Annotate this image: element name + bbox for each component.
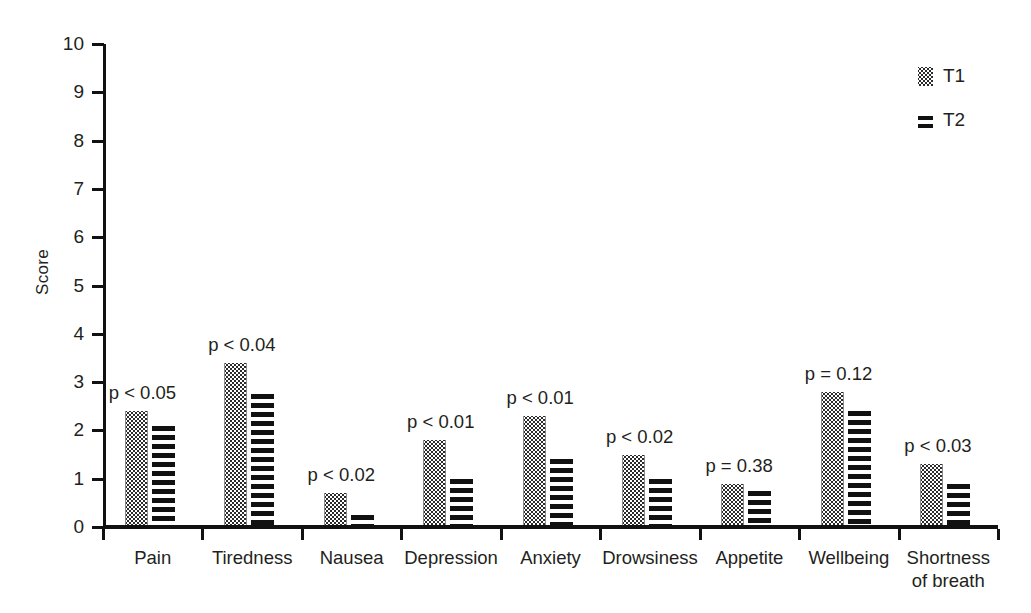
x-axis-label-line: Appetite xyxy=(700,546,799,569)
x-axis-tick xyxy=(997,529,1000,540)
x-axis-label-line: Tiredness xyxy=(202,546,301,569)
bar-t1 xyxy=(324,493,347,527)
legend-item-label: T1 xyxy=(943,64,965,88)
x-axis-tick xyxy=(699,529,702,540)
p-value-label: p = 0.38 xyxy=(705,456,772,475)
bar-t2 xyxy=(550,459,573,527)
bar-t1 xyxy=(125,411,148,527)
bar-t1 xyxy=(423,440,446,527)
x-axis-category-label: Appetite xyxy=(700,546,799,569)
bar-t2 xyxy=(649,479,672,527)
x-axis-tick xyxy=(201,529,204,540)
x-axis-tick xyxy=(102,529,105,540)
bar-t2 xyxy=(748,491,771,527)
p-value-label: p < 0.01 xyxy=(407,412,474,431)
x-axis-tick xyxy=(599,529,602,540)
x-axis-label-line: Nausea xyxy=(302,546,401,569)
bar-t1 xyxy=(523,416,546,527)
x-axis-label-line: Shortness xyxy=(899,546,998,569)
x-axis-tick xyxy=(400,529,403,540)
bar-chart: 012345678910 Score p < 0.05p < 0.04p < 0… xyxy=(0,0,1031,613)
x-axis-label-line: Wellbeing xyxy=(799,546,898,569)
x-axis-line xyxy=(103,525,998,529)
bar-t2 xyxy=(450,479,473,527)
p-value-label: p < 0.05 xyxy=(109,383,176,402)
x-axis-category-label: Drowsiness xyxy=(600,546,699,569)
x-axis-tick xyxy=(500,529,503,540)
bar-t2 xyxy=(251,394,274,527)
x-axis-category-label: Shortnessof breath xyxy=(899,546,998,592)
x-axis-category-label: Depression xyxy=(401,546,500,569)
bar-t1 xyxy=(224,363,247,527)
p-value-label: p < 0.03 xyxy=(904,436,971,455)
bar-t1 xyxy=(721,484,744,527)
bar-t2 xyxy=(848,411,871,527)
bar-t1 xyxy=(622,455,645,527)
legend-item-label: T2 xyxy=(943,108,965,132)
dotted-swatch-icon xyxy=(918,67,933,86)
legend-item-t2[interactable]: T2 xyxy=(918,108,1018,152)
p-value-label: p < 0.02 xyxy=(606,427,673,446)
x-axis-tick xyxy=(798,529,801,540)
bars-layer xyxy=(0,0,1031,527)
legend: T1 T2 xyxy=(918,64,1018,152)
bar-t2 xyxy=(152,426,175,527)
x-axis-category-label: Wellbeing xyxy=(799,546,898,569)
x-axis-tick xyxy=(898,529,901,540)
bar-t1 xyxy=(821,392,844,527)
bar-t1 xyxy=(920,464,943,527)
p-value-label: p < 0.04 xyxy=(208,335,275,354)
x-axis-label-line: Depression xyxy=(401,546,500,569)
x-axis-label-line: Anxiety xyxy=(501,546,600,569)
p-value-label: p = 0.12 xyxy=(805,364,872,383)
x-axis-label-line: of breath xyxy=(899,569,998,592)
x-axis-tick xyxy=(301,529,304,540)
p-value-label: p < 0.02 xyxy=(308,465,375,484)
x-axis-category-label: Pain xyxy=(103,546,202,569)
bar-t2 xyxy=(947,484,970,527)
x-axis-category-label: Tiredness xyxy=(202,546,301,569)
x-axis-label-line: Pain xyxy=(103,546,202,569)
legend-item-t1[interactable]: T1 xyxy=(918,64,1018,108)
x-axis-category-label: Anxiety xyxy=(501,546,600,569)
p-value-label: p < 0.01 xyxy=(507,388,574,407)
x-axis-category-label: Nausea xyxy=(302,546,401,569)
x-axis-label-line: Drowsiness xyxy=(600,546,699,569)
striped-swatch-icon xyxy=(918,116,933,128)
